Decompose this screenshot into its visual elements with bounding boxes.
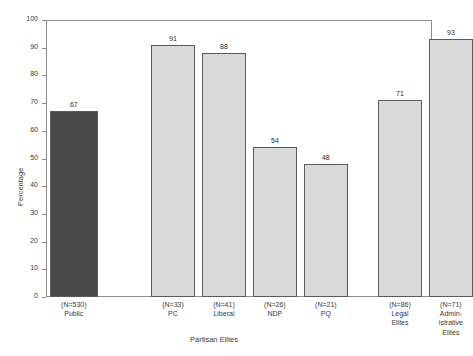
clipped-title-text: ..........: [211, 0, 234, 2]
bar: 54: [253, 147, 297, 297]
bar-value-label: 67: [70, 101, 78, 108]
y-axis-tick-label: 30: [30, 209, 38, 216]
group-name-label: Liberal: [202, 309, 246, 318]
sample-size-label: (N=41): [202, 300, 246, 309]
x-axis-category-label: (N=41)Liberal: [202, 300, 246, 318]
x-axis-category-label: (N=530)Public: [50, 300, 98, 318]
group-name-label: Admin-: [429, 309, 473, 318]
clipped-title: ..........: [0, 0, 444, 9]
sample-size-label: (N=71): [429, 300, 473, 309]
y-axis-tick-label: 0: [34, 292, 38, 299]
y-axis-tick-label: 40: [30, 181, 38, 188]
bar-value-label: 54: [271, 137, 279, 144]
x-axis-title: Partisan Elites: [0, 335, 444, 344]
bar-value-label: 48: [322, 154, 330, 161]
sample-size-label: (N=33): [151, 300, 195, 309]
group-name-label: istrative: [429, 318, 473, 327]
bar-value-label: 91: [169, 35, 177, 42]
bar-value-label: 88: [220, 43, 228, 50]
group-name-label: PC: [151, 309, 195, 318]
sample-size-label: (N=26): [253, 300, 297, 309]
x-axis-category-label: (N=71)Admin-istrativeElites: [429, 300, 473, 337]
x-axis-category-label: (N=26)NDP: [253, 300, 297, 318]
y-axis-tick-label: 70: [30, 98, 38, 105]
bar: 93: [429, 39, 473, 297]
group-name-label: Legal: [378, 309, 422, 318]
group-name-label: NDP: [253, 309, 297, 318]
y-axis-tick-label: 10: [30, 264, 38, 271]
group-name-label: PQ: [304, 309, 348, 318]
y-axis-tick-label: 60: [30, 126, 38, 133]
bars-layer: 67918854487193: [46, 20, 432, 297]
sample-size-label: (N=21): [304, 300, 348, 309]
x-axis-category-label: (N=86)LegalElites: [378, 300, 422, 328]
bar: 71: [378, 100, 422, 297]
bar: 48: [304, 164, 348, 297]
sample-size-label: (N=530): [50, 300, 98, 309]
y-axis-tick-label: 100: [26, 15, 38, 22]
x-axis-category-label: (N=33)PC: [151, 300, 195, 318]
y-axis: 0102030405060708090100: [0, 20, 46, 297]
group-name-label: Elites: [378, 318, 422, 327]
group-name-label: Public: [50, 309, 98, 318]
bar: 88: [202, 53, 246, 297]
y-axis-tick-label: 20: [30, 237, 38, 244]
bar: 67: [50, 111, 98, 297]
y-axis-tick-label: 50: [30, 154, 38, 161]
y-axis-tick-label: 90: [30, 43, 38, 50]
bar: 91: [151, 45, 195, 297]
sample-size-label: (N=86): [378, 300, 422, 309]
x-axis-category-label: (N=21)PQ: [304, 300, 348, 318]
bar-value-label: 71: [396, 90, 404, 97]
bar-value-label: 93: [447, 29, 455, 36]
y-axis-tick-label: 80: [30, 70, 38, 77]
y-axis-tick-mark: [42, 297, 46, 298]
x-axis-title-text: Partisan Elites: [190, 335, 238, 344]
